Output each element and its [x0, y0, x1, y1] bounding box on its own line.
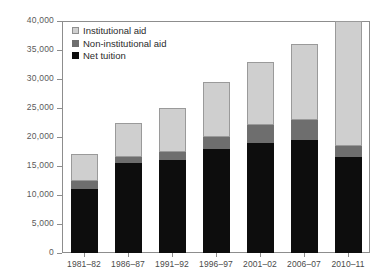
chart-legend: Institutional aidNon-institutional aidNe…	[72, 25, 166, 63]
x-axis-tick-mark	[304, 253, 305, 257]
legend-swatch-icon	[72, 40, 79, 47]
x-axis-tick-mark	[348, 253, 349, 257]
y-axis-tick-label: 10,000	[27, 189, 54, 199]
y-axis-tick-mark	[57, 253, 62, 254]
x-axis-tick-label: 1996–97	[193, 259, 239, 269]
bar-segment-institutional-aid	[203, 82, 230, 137]
bar-segment-institutional-aid	[115, 123, 142, 158]
bar-segment-net-tuition	[159, 160, 186, 253]
x-axis-tick-mark	[216, 253, 217, 257]
y-axis-tick-label: 0	[49, 247, 54, 257]
x-axis-tick-label: 2010–11	[325, 259, 371, 269]
y-axis-tick-label: 35,000	[27, 44, 54, 54]
y-axis-tick-label: 15,000	[27, 160, 54, 170]
x-axis-tick-label: 2001–02	[237, 259, 283, 269]
legend-item[interactable]: Net tuition	[72, 50, 166, 62]
x-axis-tick-label: 1986–87	[105, 259, 151, 269]
x-axis-tick-mark	[128, 253, 129, 257]
x-axis-tick-label: 2006–07	[281, 259, 327, 269]
x-axis-tick-mark	[172, 253, 173, 257]
x-axis-tick-label: 1991–92	[149, 259, 195, 269]
bar-2001-02[interactable]	[247, 21, 274, 253]
y-axis-tick-label: 30,000	[27, 73, 54, 83]
bar-segment-net-tuition	[115, 163, 142, 253]
x-axis-tick-mark	[260, 253, 261, 257]
x-axis-tick-label: 1981–82	[61, 259, 107, 269]
y-axis-tick-label: 20,000	[27, 131, 54, 141]
bar-2006-07[interactable]	[291, 21, 318, 253]
bar-segment-non-institutional-aid	[115, 157, 142, 163]
x-axis-tick-mark	[84, 253, 85, 257]
bar-segment-net-tuition	[291, 140, 318, 253]
bar-segment-institutional-aid	[159, 108, 186, 152]
legend-label: Institutional aid	[83, 25, 146, 37]
bar-segment-institutional-aid	[291, 44, 318, 119]
y-axis-tick-label: 25,000	[27, 102, 54, 112]
legend-item[interactable]: Non-institutional aid	[72, 38, 166, 50]
legend-label: Non-institutional aid	[83, 38, 166, 50]
bar-segment-non-institutional-aid	[247, 125, 274, 142]
cropped-title-remnant	[40, 0, 381, 7]
bar-segment-institutional-aid	[71, 154, 98, 180]
stacked-bar-chart-figure: Dollars 05,00010,00015,00020,00025,00030…	[0, 0, 381, 280]
bar-segment-institutional-aid	[247, 62, 274, 126]
bar-1996-97[interactable]	[203, 21, 230, 253]
bar-segment-non-institutional-aid	[203, 137, 230, 149]
bar-segment-non-institutional-aid	[335, 146, 362, 158]
bar-segment-net-tuition	[71, 189, 98, 253]
bar-segment-non-institutional-aid	[159, 152, 186, 161]
legend-swatch-icon	[72, 52, 79, 59]
bar-segment-non-institutional-aid	[291, 120, 318, 140]
bar-segment-institutional-aid	[335, 21, 362, 146]
bar-segment-net-tuition	[247, 143, 274, 253]
legend-label: Net tuition	[83, 50, 126, 62]
y-axis-tick-label: 5,000	[32, 218, 54, 228]
bar-segment-net-tuition	[203, 149, 230, 253]
bar-segment-non-institutional-aid	[71, 181, 98, 190]
bar-2010-11[interactable]	[335, 21, 362, 253]
y-axis-tick-label: 40,000	[27, 15, 54, 25]
legend-item[interactable]: Institutional aid	[72, 25, 166, 37]
legend-swatch-icon	[72, 27, 79, 34]
bar-segment-net-tuition	[335, 157, 362, 253]
